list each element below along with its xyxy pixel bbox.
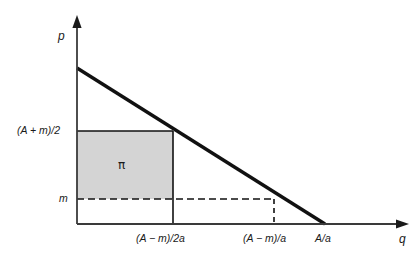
y-tick-label-marginal-cost: m: [59, 193, 68, 204]
x-tick-label-monopoly-quantity: (A − m)/2a: [136, 233, 185, 244]
y-tick-label-monopoly-price: (A + m)/2: [17, 125, 60, 136]
x-tick-label-competitive-quantity: (A − m)/a: [243, 233, 286, 244]
economics-diagram: p q (A + m)/2 m (A − m)/2a (A − m)/a A/a…: [0, 0, 420, 264]
x-tick-label-choke-quantity: A/a: [315, 233, 331, 244]
q-axis-arrow-icon: [396, 219, 409, 228]
p-axis-label: p: [58, 30, 65, 42]
q-axis-label: q: [399, 233, 406, 245]
rectangle-lower-area: [77, 199, 173, 224]
profit-region-label: π: [118, 159, 125, 171]
p-axis-arrow-icon: [72, 15, 81, 28]
